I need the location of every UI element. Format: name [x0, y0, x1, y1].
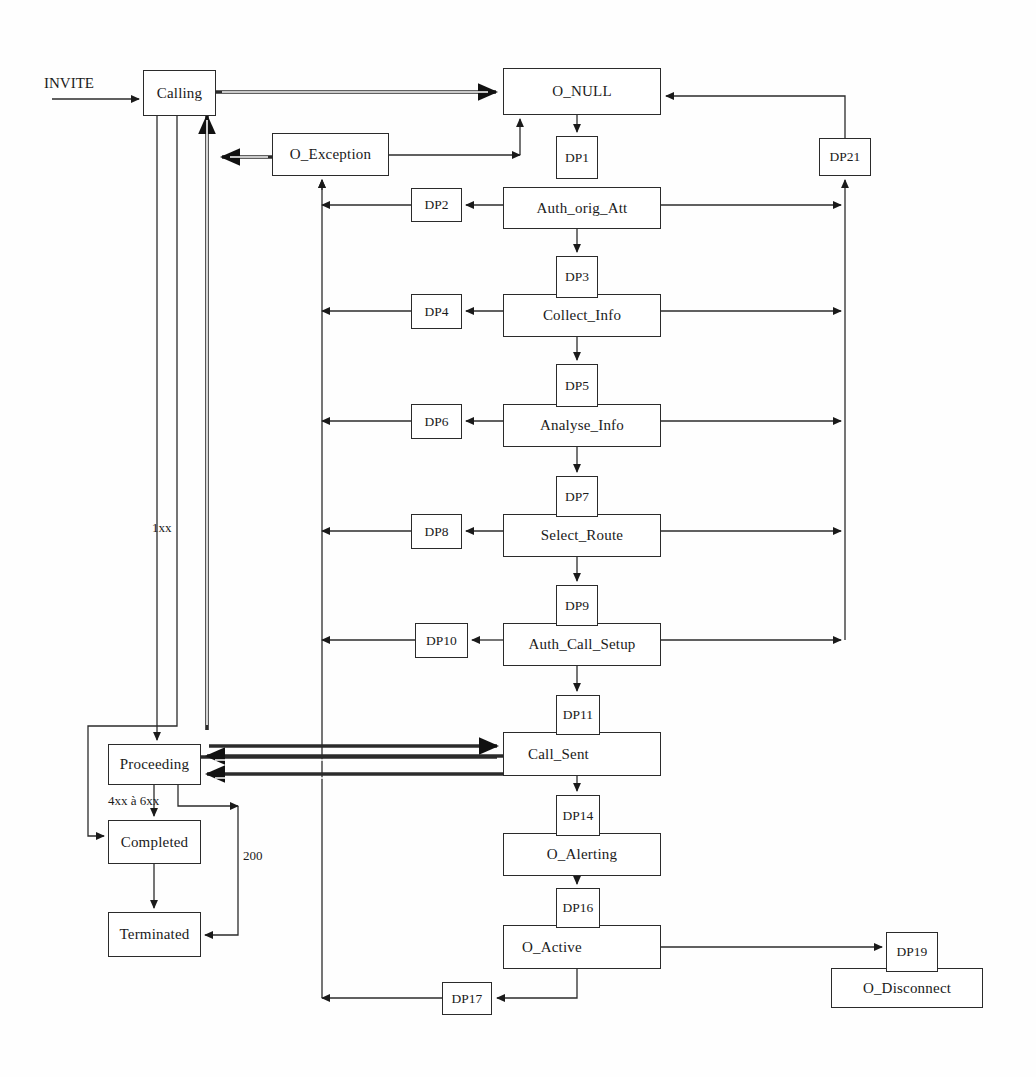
detection-point-dp1[interactable]: DP1: [556, 136, 598, 179]
dp-label: DP2: [424, 197, 448, 213]
dp-label: DP6: [424, 414, 448, 430]
detection-point-dp8[interactable]: DP8: [411, 514, 462, 549]
state-o-disconnect[interactable]: O_Disconnect: [831, 968, 983, 1008]
state-label: Auth_Call_Setup: [528, 636, 635, 653]
state-analyse-info[interactable]: Analyse_Info: [503, 404, 661, 447]
detection-point-dp16[interactable]: DP16: [556, 888, 600, 928]
edge-label-invite: INVITE: [44, 75, 94, 92]
state-label: Analyse_Info: [540, 417, 624, 434]
detection-point-dp10[interactable]: DP10: [415, 623, 468, 658]
detection-point-dp17[interactable]: DP17: [442, 982, 492, 1015]
state-collect-info[interactable]: Collect_Info: [503, 294, 661, 337]
state-proceeding[interactable]: Proceeding: [108, 744, 201, 785]
state-label: Terminated: [119, 926, 189, 943]
state-select-route[interactable]: Select_Route: [503, 514, 661, 557]
state-auth-orig-att[interactable]: Auth_orig_Att: [503, 187, 661, 229]
detection-point-dp9[interactable]: DP9: [556, 585, 598, 626]
state-label: Call_Sent: [528, 746, 589, 763]
state-auth-call-setup[interactable]: Auth_Call_Setup: [503, 623, 661, 666]
dp-label: DP19: [897, 944, 928, 960]
dp-label: DP9: [565, 598, 589, 614]
detection-point-dp21[interactable]: DP21: [819, 138, 871, 176]
state-label: O_Exception: [290, 146, 371, 163]
dp-label: DP16: [563, 900, 594, 916]
detection-point-dp11[interactable]: DP11: [556, 695, 600, 735]
dp-label: DP7: [565, 489, 589, 505]
state-call-sent[interactable]: Call_Sent: [503, 732, 661, 776]
state-o-null[interactable]: O_NULL: [503, 68, 661, 115]
detection-point-dp6[interactable]: DP6: [411, 404, 462, 439]
state-terminated[interactable]: Terminated: [108, 912, 201, 957]
detection-point-dp2[interactable]: DP2: [411, 188, 462, 222]
state-o-alerting[interactable]: O_Alerting: [503, 833, 661, 876]
dp-label: DP1: [565, 150, 589, 166]
dp-label: DP4: [424, 304, 448, 320]
detection-point-dp3[interactable]: DP3: [556, 256, 598, 298]
detection-point-dp7[interactable]: DP7: [556, 476, 598, 517]
dp-label: DP8: [424, 524, 448, 540]
dp-label: DP11: [563, 707, 593, 723]
detection-point-dp14[interactable]: DP14: [556, 795, 600, 836]
state-label: Collect_Info: [543, 307, 621, 324]
edge-label-4xx-6xx: 4xx à 6xx: [108, 793, 159, 809]
detection-point-dp19[interactable]: DP19: [886, 932, 938, 972]
state-label: Completed: [121, 834, 189, 851]
dp-label: DP21: [830, 149, 861, 165]
diagram-canvas: Calling O_NULL O_Exception Auth_orig_Att…: [0, 0, 1036, 1077]
dp-label: DP5: [565, 378, 589, 394]
state-o-active[interactable]: O_Active: [503, 925, 661, 969]
state-label: Calling: [157, 85, 203, 102]
state-label: O_NULL: [552, 83, 612, 100]
state-calling[interactable]: Calling: [143, 70, 216, 116]
state-label: Select_Route: [541, 527, 623, 544]
state-label: Proceeding: [120, 756, 189, 773]
state-label: Auth_orig_Att: [537, 200, 628, 217]
state-label: O_Alerting: [547, 846, 617, 863]
dp-label: DP17: [452, 991, 483, 1007]
dp-label: DP3: [565, 269, 589, 285]
edge-label-200: 200: [243, 848, 263, 864]
state-label: O_Active: [522, 939, 582, 956]
edge-label-1xx: 1xx: [152, 520, 172, 536]
detection-point-dp4[interactable]: DP4: [411, 294, 462, 329]
state-completed[interactable]: Completed: [108, 820, 201, 864]
state-o-exception[interactable]: O_Exception: [272, 133, 389, 176]
state-label: O_Disconnect: [863, 980, 951, 997]
detection-point-dp5[interactable]: DP5: [556, 364, 598, 407]
dp-label: DP10: [426, 633, 457, 649]
dp-label: DP14: [563, 808, 594, 824]
